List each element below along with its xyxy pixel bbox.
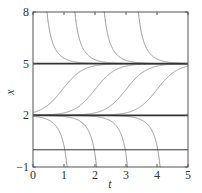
x-tick-label: 4 (154, 168, 160, 182)
x-tick-label: 3 (123, 168, 129, 182)
x-tick-label: 5 (185, 168, 191, 182)
x-tick-label: 2 (92, 168, 98, 182)
x-axis-label: t (108, 177, 112, 191)
solution-curve (104, 12, 188, 64)
solution-curve (33, 116, 68, 167)
solution-curve (33, 115, 161, 167)
solution-curves-chart: 012345−1258 t x (0, 0, 202, 193)
solution-curve (33, 115, 128, 167)
plot-frame (33, 12, 188, 167)
solution-curve (33, 64, 188, 116)
solution-curve (74, 12, 188, 64)
solution-curve (138, 12, 188, 63)
solution-curves (33, 12, 188, 167)
y-tick-label: 8 (23, 5, 29, 19)
x-tick-label: 1 (61, 168, 67, 182)
y-axis-label: x (3, 89, 17, 96)
equilibrium-lines (33, 64, 188, 150)
y-tick-label: −1 (16, 160, 29, 174)
y-tick-label: 2 (23, 108, 29, 122)
axis-ticks: 012345−1258 (16, 5, 191, 182)
x-tick-label: 0 (30, 168, 36, 182)
y-tick-label: 5 (23, 57, 29, 71)
solution-curve (46, 12, 188, 64)
solution-curve (33, 64, 188, 116)
solution-curve (33, 115, 97, 167)
solution-curve (33, 64, 188, 113)
